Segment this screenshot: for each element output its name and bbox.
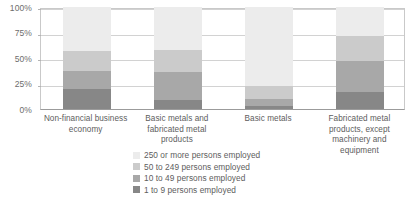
legend-item[interactable]: 10 to 49 persons employed [133, 173, 260, 183]
bar-segment [245, 7, 293, 86]
x-axis-category-labels: Non-financial business economyBasic meta… [40, 114, 405, 146]
legend-swatch-icon [133, 186, 140, 193]
y-axis-tick-label: 75% [15, 29, 32, 38]
plot-region: 100% 75% 50% 25% 0% Non-financial busine… [0, 0, 414, 145]
bar-segment [245, 86, 293, 99]
bar-segment [154, 50, 202, 72]
bar-segment [245, 106, 293, 109]
legend-swatch-icon [133, 175, 140, 182]
bar-column [336, 7, 384, 109]
x-axis-category-label: Basic metals and fabricated metal produc… [131, 114, 222, 146]
y-axis-tick-label: 0% [20, 106, 33, 115]
y-axis: 100% 75% 50% 25% 0% [0, 0, 36, 118]
legend-label: 1 to 9 persons employed [144, 185, 236, 195]
legend-item[interactable]: 250 or more persons employed [133, 150, 260, 160]
legend-label: 10 to 49 persons employed [144, 173, 245, 183]
bar-column [245, 7, 293, 109]
bar-column [63, 7, 111, 109]
legend-swatch-icon [133, 163, 140, 170]
x-axis-category-label: Non-financial business economy [40, 114, 131, 135]
bar-segment [63, 71, 111, 88]
bar-segment [63, 89, 111, 109]
chart-legend: 250 or more persons employed50 to 249 pe… [133, 150, 260, 195]
y-axis-tick-label: 50% [15, 55, 32, 64]
x-axis-category-label: Basic metals [223, 114, 314, 125]
y-axis-tick-label: 25% [15, 80, 32, 89]
bar-segment [154, 100, 202, 109]
bar-segment [336, 92, 384, 109]
bars-layer [41, 9, 404, 109]
x-axis-category-label: Fabricated metal products, except machin… [314, 114, 405, 156]
bar-column [154, 7, 202, 109]
bar-segment [245, 99, 293, 106]
stacked-bar-chart: 100% 75% 50% 25% 0% Non-financial busine… [0, 0, 414, 199]
bar-segment [336, 36, 384, 62]
legend-label: 50 to 249 persons employed [144, 162, 250, 172]
bar-segment [63, 7, 111, 51]
legend-label: 250 or more persons employed [144, 150, 260, 160]
plot-area [40, 8, 405, 110]
bar-segment [154, 7, 202, 50]
bar-segment [336, 61, 384, 92]
bar-segment [63, 51, 111, 71]
legend-swatch-icon [133, 152, 140, 159]
legend-item[interactable]: 1 to 9 persons employed [133, 185, 260, 195]
legend-item[interactable]: 50 to 249 persons employed [133, 162, 260, 172]
bar-segment [336, 7, 384, 36]
y-axis-tick-label: 100% [10, 4, 32, 13]
bar-segment [154, 72, 202, 100]
